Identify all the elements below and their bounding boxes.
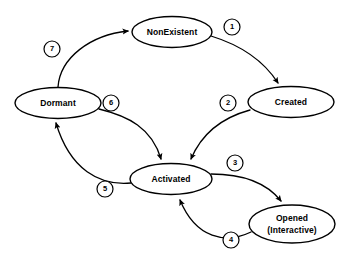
transition-badge-2[interactable]: 2 <box>220 95 236 111</box>
transition-arrow-4 <box>180 200 251 238</box>
transition-badge-1[interactable]: 1 <box>224 19 240 35</box>
transition-badge-label: 6 <box>109 98 113 107</box>
transition-badge-label: 1 <box>230 22 234 31</box>
state-node-label: Dormant <box>40 98 76 108</box>
state-node-label: Created <box>275 97 307 107</box>
state-node-created[interactable]: Created <box>248 87 334 118</box>
transition-badge-label: 3 <box>233 158 237 167</box>
transition-arrow-5 <box>56 123 131 183</box>
transition-badge-3[interactable]: 3 <box>227 155 243 171</box>
badges-layer: 1234567 <box>44 19 243 248</box>
state-transition-diagram: NonExistentCreatedDormantActivatedOpened… <box>0 0 347 262</box>
transition-badge-label: 7 <box>50 44 54 53</box>
transition-arrow-1 <box>211 36 278 83</box>
state-node-sublabel: (Interactive) <box>267 225 317 235</box>
state-node-label: Opened <box>276 213 308 223</box>
transition-badge-label: 5 <box>103 184 107 193</box>
transition-badge-label: 2 <box>226 98 230 107</box>
state-node-nonexistent[interactable]: NonExistent <box>132 17 212 48</box>
transition-badge-5[interactable]: 5 <box>97 181 113 197</box>
transition-arrow-2 <box>191 110 250 159</box>
transition-arrow-7 <box>58 31 128 87</box>
state-node-opened[interactable]: Opened(Interactive) <box>249 205 335 243</box>
transition-badge-7[interactable]: 7 <box>44 41 60 57</box>
state-diagram-canvas: NonExistentCreatedDormantActivatedOpened… <box>0 0 347 262</box>
nodes-layer: NonExistentCreatedDormantActivatedOpened… <box>15 17 335 244</box>
state-node-dormant[interactable]: Dormant <box>15 88 101 119</box>
transition-badge-6[interactable]: 6 <box>103 95 119 111</box>
transition-arrow-6 <box>99 109 161 159</box>
state-node-label: Activated <box>151 174 190 184</box>
state-node-label: NonExistent <box>147 27 198 37</box>
edges-layer <box>56 31 281 238</box>
transition-badge-4[interactable]: 4 <box>223 232 239 248</box>
transition-arrow-3 <box>211 174 281 201</box>
state-node-activated[interactable]: Activated <box>130 164 212 195</box>
